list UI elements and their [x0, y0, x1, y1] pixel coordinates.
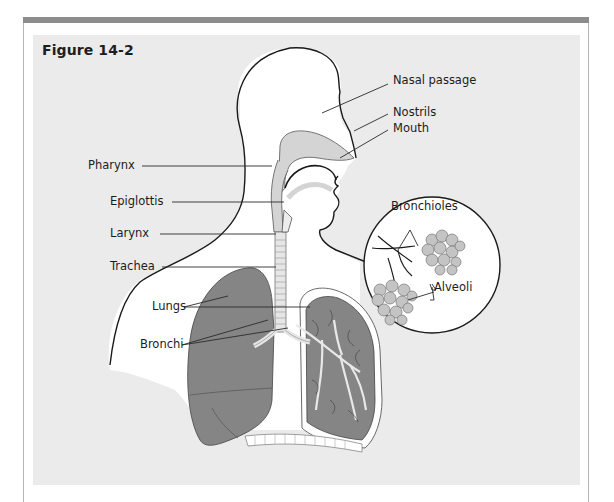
label-alveoli: Alveoli — [434, 282, 472, 294]
respiratory-diagram — [0, 0, 614, 502]
label-bronchioles: Bronchioles — [391, 201, 458, 213]
label-pharynx: Pharynx — [88, 160, 135, 172]
label-mouth: Mouth — [393, 123, 429, 135]
label-trachea: Trachea — [110, 261, 155, 273]
label-larynx: Larynx — [110, 228, 149, 240]
label-nasal-passage: Nasal passage — [393, 75, 476, 87]
label-lungs: Lungs — [152, 301, 186, 313]
label-bronchi: Bronchi — [140, 339, 184, 351]
label-epiglottis: Epiglottis — [110, 196, 164, 208]
label-nostrils: Nostrils — [393, 107, 436, 119]
